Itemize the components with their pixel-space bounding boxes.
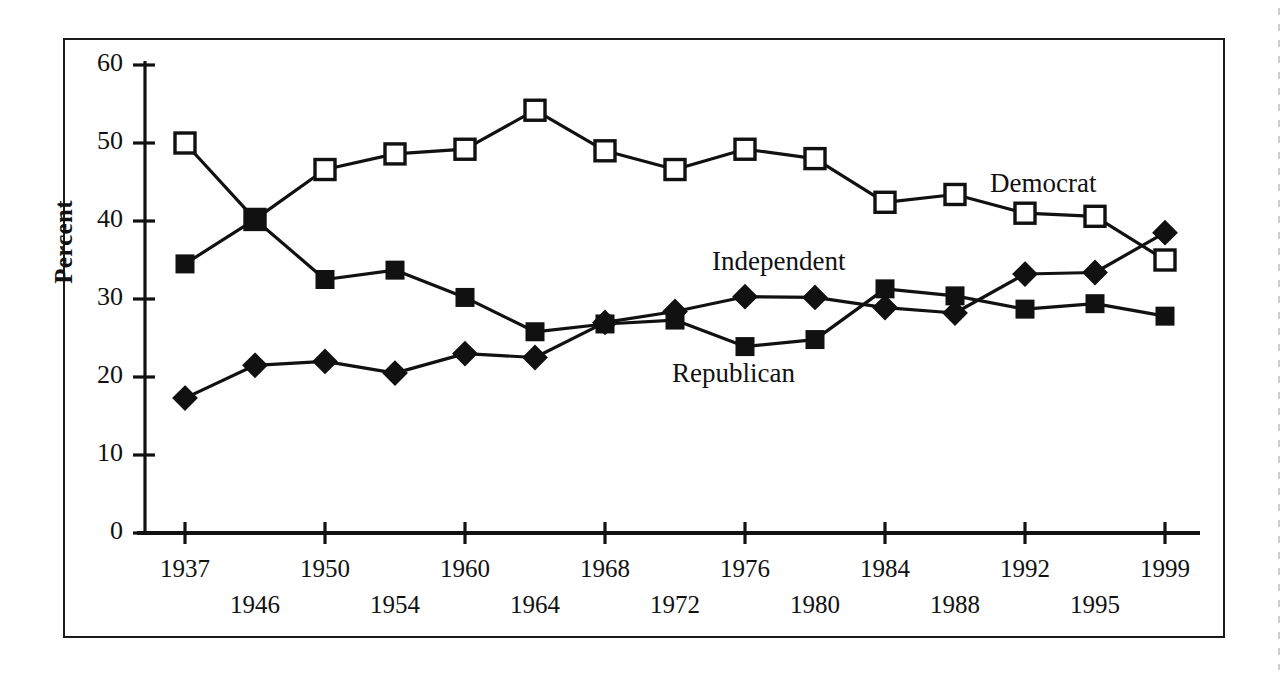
chart-figure: Percent 6050403020100 193719501960196819… [0,0,1286,677]
series-label-republican: Republican [672,358,795,389]
axes-lines [133,61,1200,544]
series-label-democrat: Democrat [990,168,1096,199]
plot-canvas [0,0,1286,677]
series-label-independent: Independent [712,246,845,277]
